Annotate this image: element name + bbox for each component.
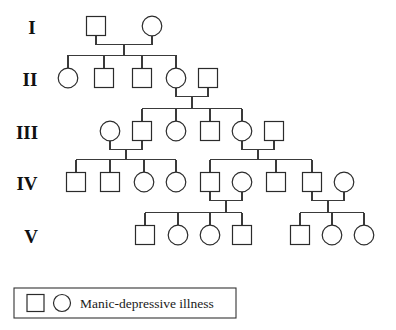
pedigree-svg: IIIIIIIVV Manic-depressive illness (0, 0, 396, 330)
individual-III-1 (100, 121, 120, 141)
individual-V-2 (168, 225, 188, 245)
affected-male-symbol (87, 17, 106, 36)
individual-II-3 (133, 69, 152, 88)
individual-IV-7 (267, 173, 286, 192)
legend-label: Manic-depressive illness (80, 296, 214, 311)
individual-II-5 (199, 69, 218, 88)
unaffected-male-symbol (67, 173, 86, 192)
individual-IV-2 (101, 173, 120, 192)
individual-V-5 (291, 226, 310, 245)
unaffected-female-symbol (100, 121, 120, 141)
affected-female-symbol (232, 121, 252, 141)
individual-III-3 (166, 121, 186, 141)
individual-II-1 (58, 68, 78, 88)
generation-label-V: V (24, 226, 38, 247)
unaffected-male-symbol (291, 226, 310, 245)
affected-female-symbol (166, 172, 186, 192)
unaffected-male-symbol (95, 69, 114, 88)
generation-label-III: III (16, 122, 38, 143)
individual-III-4 (201, 122, 220, 141)
affected-female-symbol (166, 68, 186, 88)
unaffected-female-symbol (142, 16, 162, 36)
unaffected-female-symbol (168, 225, 188, 245)
individual-I-1 (87, 17, 106, 36)
legend-striped-circle-icon (54, 295, 71, 312)
affected-male-symbol (136, 226, 155, 245)
legend: Manic-depressive illness (14, 288, 236, 318)
affected-male-symbol (133, 122, 152, 141)
unaffected-male-symbol (267, 173, 286, 192)
individual-IV-6 (232, 172, 252, 192)
unaffected-male-symbol (199, 69, 218, 88)
individual-V-3 (200, 225, 220, 245)
unaffected-female-symbol (166, 121, 186, 141)
individual-II-2 (95, 69, 114, 88)
individual-III-6 (265, 122, 284, 141)
individual-symbols (58, 16, 374, 245)
affected-female-symbol (58, 68, 78, 88)
individual-V-6 (322, 225, 342, 245)
individual-IV-9 (334, 172, 354, 192)
unaffected-male-symbol (201, 173, 220, 192)
individual-V-4 (233, 226, 252, 245)
individual-I-2 (142, 16, 162, 36)
individual-IV-8 (303, 173, 322, 192)
individual-IV-4 (166, 172, 186, 192)
unaffected-male-symbol (265, 122, 284, 141)
pedigree-chart: IIIIIIIVV Manic-depressive illness (0, 0, 396, 330)
unaffected-female-symbol (334, 172, 354, 192)
generation-label-IV: IV (16, 173, 37, 194)
individual-IV-5 (201, 173, 220, 192)
legend-striped-square-icon (27, 295, 44, 312)
unaffected-male-symbol (233, 226, 252, 245)
individual-III-2 (133, 122, 152, 141)
individual-II-4 (166, 68, 186, 88)
affected-female-symbol (232, 172, 252, 192)
unaffected-male-symbol (201, 122, 220, 141)
unaffected-male-symbol (101, 173, 120, 192)
individual-IV-1 (67, 173, 86, 192)
individual-III-5 (232, 121, 252, 141)
individual-V-7 (354, 225, 374, 245)
individual-V-1 (136, 226, 155, 245)
affected-female-symbol (322, 225, 342, 245)
unaffected-male-symbol (133, 69, 152, 88)
affected-female-symbol (134, 172, 154, 192)
affected-female-symbol (354, 225, 374, 245)
generation-label-II: II (23, 69, 38, 90)
generation-labels: IIIIIIIVV (16, 17, 38, 247)
individual-IV-3 (134, 172, 154, 192)
affected-female-symbol (200, 225, 220, 245)
affected-male-symbol (303, 173, 322, 192)
generation-label-I: I (28, 17, 35, 38)
